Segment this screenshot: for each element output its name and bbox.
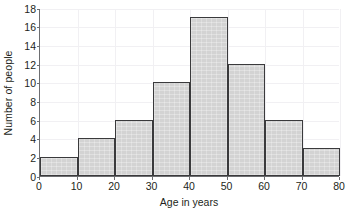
y-axis-title: Number of people: [0, 0, 16, 185]
histogram-figure: Number of people 024681012141618 0102030…: [0, 0, 354, 214]
x-axis-tick-label: 40: [176, 180, 202, 193]
histogram-bar: [190, 17, 228, 176]
x-axis-tick-label: 70: [289, 180, 315, 193]
y-axis-tick-label: 6: [16, 116, 36, 126]
x-axis-tick-label: 20: [101, 180, 127, 193]
y-axis-tick-label: 2: [16, 153, 36, 163]
y-axis-tick-label: 8: [16, 97, 36, 107]
histogram-bars: [40, 9, 339, 176]
x-axis-tick-label: 80: [326, 180, 352, 193]
x-axis-tick-labels: 01020304050607080: [0, 180, 354, 194]
y-axis-tick-label: 16: [16, 22, 36, 32]
y-axis-tick-label: 10: [16, 78, 36, 88]
histogram-bar: [303, 148, 341, 176]
histogram-bar: [40, 157, 78, 176]
x-axis-tick-label: 60: [251, 180, 277, 193]
x-axis-title: Age in years: [39, 196, 339, 208]
histogram-bar: [153, 82, 191, 175]
y-axis-tick-label: 14: [16, 41, 36, 51]
y-axis-tick-label: 18: [16, 4, 36, 14]
plot-area: [39, 9, 339, 177]
y-axis-tick-labels: 024681012141618: [16, 0, 36, 185]
gridline-vertical: [340, 9, 341, 176]
x-axis-tick-label: 0: [26, 180, 52, 193]
histogram-bar: [78, 138, 116, 175]
x-axis-tick-label: 30: [139, 180, 165, 193]
y-axis-tick-label: 4: [16, 134, 36, 144]
histogram-bar: [228, 64, 266, 176]
histogram-bar: [115, 120, 153, 176]
y-axis-tick-label: 12: [16, 60, 36, 70]
y-axis-title-text: Number of people: [2, 50, 14, 135]
x-axis-tick-label: 50: [214, 180, 240, 193]
histogram-bar: [265, 120, 303, 176]
x-axis-tick-label: 10: [64, 180, 90, 193]
